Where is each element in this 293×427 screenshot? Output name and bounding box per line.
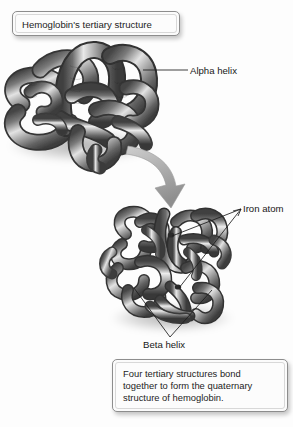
leader-lines [134,70,241,337]
tertiary-structure-illustration [8,50,156,168]
bottom-caption-text: Four tertiary structures bond together t… [113,360,287,404]
curved-down-arrow-icon [126,146,185,208]
leader-iron-2 [179,209,241,288]
leader-beta-1 [134,288,170,337]
leader-beta-2 [170,290,212,337]
quaternary-structure-illustration [105,212,235,332]
leader-iron-arrowhead [233,209,241,216]
label-beta-helix: Beta helix [143,339,185,350]
leader-iron-1 [172,209,241,236]
label-iron-atom: Iron atom [243,203,284,214]
hemoglobin-structure-figure: Hemoglobin's tertiary structure Four ter… [0,0,293,427]
iron-atom-marker [168,232,181,289]
title-caption-text: Hemoglobin's tertiary structure [13,12,179,30]
title-caption-box: Hemoglobin's tertiary structure [12,11,180,36]
label-alpha-helix: Alpha helix [190,65,237,76]
bottom-caption-box: Four tertiary structures bond together t… [112,359,288,412]
